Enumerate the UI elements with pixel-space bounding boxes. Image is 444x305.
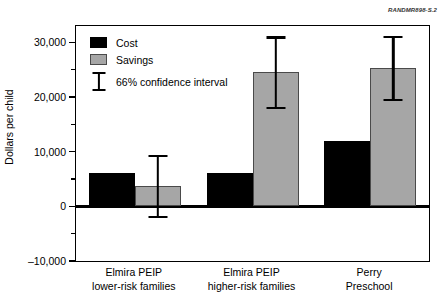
legend-item-savings: Savings [90,51,290,68]
y-tick-major [69,151,76,152]
y-tick-label: 10,000 [34,146,66,158]
error-bar-cap-bottom-2 [266,107,285,109]
y-tick-minor [71,233,76,234]
bar-cost-1 [89,173,135,206]
y-tick-minor [71,178,76,179]
error-bar-cap-top-1 [148,155,167,157]
figure-chart: RANDMR898-S.2 Dollars per child –10,0000… [0,0,444,305]
y-tick-label: 30,000 [34,36,66,48]
y-tick-minor [71,124,76,125]
y-axis-title: Dollars per child [3,12,17,242]
legend-label-cost: Cost [116,37,138,49]
y-tick-minor [71,69,76,70]
source-identifier: RANDMR898-S.2 [388,7,437,13]
bar-cost-3 [324,141,370,207]
y-tick-major [69,96,76,97]
legend-label-confidence-interval: 66% confidence interval [116,76,228,88]
y-tick-label: 0 [60,200,66,212]
legend-item-cost: Cost [90,34,290,51]
x-category-label-line: Perry [289,266,444,280]
x-category-label-line: Preschool [289,280,444,294]
y-tick-major [69,260,76,261]
legend-swatch-savings-icon [90,54,107,65]
error-bar-stem-3 [392,37,394,100]
error-bar-cap-bottom-1 [148,216,167,218]
y-tick-label: 20,000 [34,91,66,103]
y-tick-major [69,206,76,207]
legend-error-bar-icon [90,72,107,91]
error-bar-cap-top-3 [384,36,403,38]
x-category-label-3: PerryPreschool [289,266,444,293]
y-tick-major [69,42,76,43]
error-bar-stem-1 [157,156,159,217]
legend-item-confidence-interval: 66% confidence interval [90,71,290,92]
bar-cost-2 [207,173,253,206]
error-bar-cap-bottom-3 [384,99,403,101]
chart-legend: Cost Savings 66% confidence interval [90,34,290,92]
plot-area: –10,000010,00020,00030,000 Cost Savings … [75,25,430,262]
legend-swatch-cost-icon [90,37,107,48]
legend-label-savings: Savings [116,54,153,66]
